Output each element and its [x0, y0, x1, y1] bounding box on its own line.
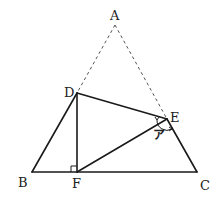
segment-EC — [167, 119, 197, 172]
right-angle-marker-icon — [71, 166, 77, 172]
arrowhead-icon — [155, 117, 159, 120]
segment-DE — [77, 93, 167, 119]
segment-AE — [115, 25, 167, 119]
label-D: D — [64, 85, 74, 100]
segment-BD — [32, 93, 77, 172]
label-F: F — [72, 176, 81, 191]
segment-FE — [77, 119, 167, 172]
label-C: C — [200, 178, 210, 193]
dashed-fold-lines — [77, 25, 167, 119]
segment-AD — [77, 25, 115, 93]
solid-segments — [32, 93, 197, 172]
label-E: E — [170, 110, 180, 125]
geometry-diagram: A B C D E F ア — [0, 0, 224, 198]
label-A: A — [109, 8, 120, 23]
point-labels: A B C D E F — [18, 8, 210, 193]
angle-label-a: ア — [153, 128, 165, 142]
label-B: B — [18, 175, 28, 190]
